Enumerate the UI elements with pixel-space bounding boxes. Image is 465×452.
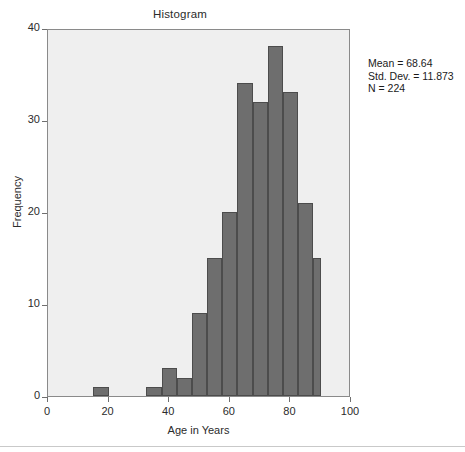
x-tick-mark: [229, 397, 230, 402]
histogram-bar: [283, 92, 298, 396]
x-tick-label: 0: [27, 405, 67, 417]
y-axis: Frequency 010203040: [0, 0, 47, 452]
bars-container: [48, 30, 349, 396]
x-tick-label: 100: [330, 405, 370, 417]
histogram-bar: [268, 46, 283, 396]
histogram-bar: [222, 212, 237, 396]
statistics-annotation: Mean = 68.64 Std. Dev. = 11.873 N = 224: [368, 57, 454, 95]
x-tick-mark: [350, 397, 351, 402]
x-tick-label: 80: [269, 405, 309, 417]
y-tick-label: 30: [28, 113, 40, 125]
y-axis-tick: 40: [0, 29, 47, 30]
histogram-bar: [192, 313, 207, 396]
histogram-bar: [237, 83, 252, 396]
stat-std-dev: Std. Dev. = 11.873: [368, 70, 454, 83]
chart-title: Histogram: [0, 8, 360, 20]
histogram-bar: [177, 378, 192, 396]
x-tick-label: 60: [209, 405, 249, 417]
stat-mean: Mean = 68.64: [368, 57, 454, 70]
x-tick-mark: [108, 397, 109, 402]
histogram-figure: Histogram Frequency 010203040 Age in Yea…: [0, 0, 465, 452]
histogram-bar: [207, 258, 222, 396]
histogram-bar: [253, 102, 268, 396]
y-tick-label: 40: [28, 21, 40, 33]
y-axis-tick: 30: [0, 121, 47, 122]
x-tick-mark: [168, 397, 169, 402]
x-tick-mark: [47, 397, 48, 402]
stat-n: N = 224: [368, 82, 454, 95]
bottom-divider: [0, 446, 465, 447]
x-tick-mark: [289, 397, 290, 402]
y-axis-tick: 20: [0, 213, 47, 214]
y-tick-label: 20: [28, 205, 40, 217]
x-axis-title: Age in Years: [47, 424, 350, 436]
plot-area: [47, 29, 350, 397]
histogram-bar: [313, 258, 321, 396]
y-axis-tick: 10: [0, 305, 47, 306]
x-tick-label: 20: [88, 405, 128, 417]
x-tick-label: 40: [148, 405, 188, 417]
histogram-bar: [146, 387, 161, 396]
x-axis: Age in Years 020406080100: [0, 397, 465, 452]
y-axis-title: Frequency: [11, 157, 23, 247]
histogram-bar: [298, 203, 313, 396]
histogram-bar: [93, 387, 108, 396]
y-tick-label: 10: [28, 297, 40, 309]
histogram-bar: [162, 368, 177, 396]
